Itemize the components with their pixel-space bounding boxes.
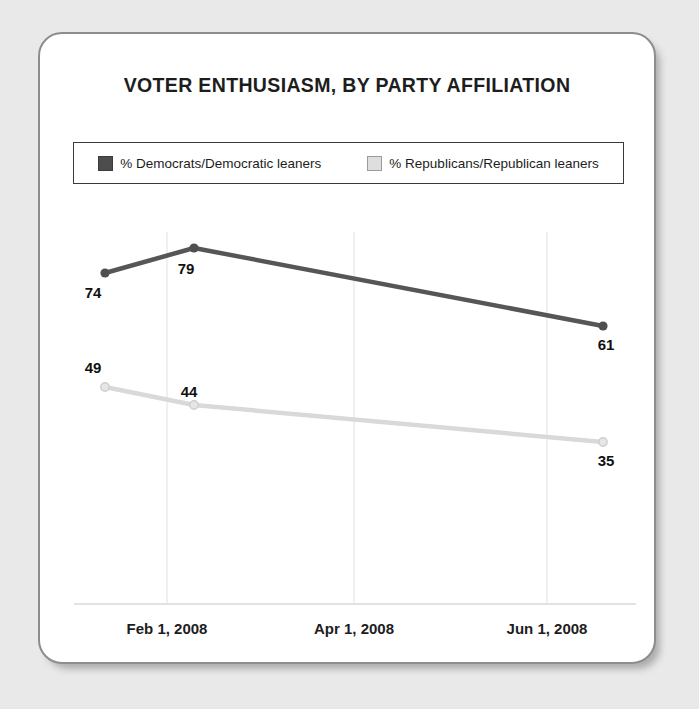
legend-label-democrats: % Democrats/Democratic leaners bbox=[120, 156, 321, 171]
legend-item-democrats[interactable]: % Democrats/Democratic leaners bbox=[98, 156, 321, 171]
value-label-rep-3: 35 bbox=[598, 452, 615, 469]
x-tick-label-2: Apr 1, 2008 bbox=[314, 620, 394, 637]
legend-swatch-republicans-icon bbox=[367, 156, 382, 171]
legend-label-republicans: % Republicans/Republican leaners bbox=[389, 156, 598, 171]
legend-item-republicans[interactable]: % Republicans/Republican leaners bbox=[367, 156, 598, 171]
chart-title: VOTER ENTHUSIASM, BY PARTY AFFILIATION bbox=[40, 74, 654, 97]
value-label-dem-3: 61 bbox=[598, 336, 615, 353]
x-tick-label-3: Jun 1, 2008 bbox=[507, 620, 588, 637]
chart-plot-svg: 74 79 61 49 44 35 Feb 1, 2008 Apr 1, 200… bbox=[40, 34, 658, 666]
series-republicans bbox=[101, 383, 607, 446]
gridlines bbox=[167, 232, 547, 604]
chart-legend: % Democrats/Democratic leaners % Republi… bbox=[73, 142, 624, 184]
value-label-dem-1: 74 bbox=[85, 284, 102, 301]
series-democrats bbox=[100, 243, 607, 330]
plot-area: 74 79 61 49 44 35 Feb 1, 2008 Apr 1, 200… bbox=[40, 34, 658, 666]
legend-swatch-democrats-icon bbox=[98, 156, 113, 171]
value-label-dem-2: 79 bbox=[178, 260, 195, 277]
chart-card: VOTER ENTHUSIASM, BY PARTY AFFILIATION %… bbox=[38, 32, 656, 664]
value-label-rep-1: 49 bbox=[85, 359, 102, 376]
x-tick-label-1: Feb 1, 2008 bbox=[127, 620, 208, 637]
value-label-rep-2: 44 bbox=[181, 383, 198, 400]
